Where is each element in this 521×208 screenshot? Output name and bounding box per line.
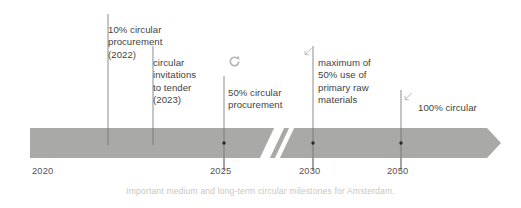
milestone-label-2025: 50% circular procurement: [228, 74, 300, 124]
year-label-2030: 2030: [299, 166, 320, 177]
milestone-label-2030: maximum of 50% use of primary raw materi…: [318, 44, 384, 120]
milestone-label-2050: 100% circular: [418, 89, 502, 127]
milestone-label-2023-text: circular invitations to tender (2023): [153, 57, 219, 107]
arrow-down-left-icon-2030: [304, 47, 313, 56]
dot-2030: [311, 141, 314, 144]
year-label-2050: 2050: [387, 166, 408, 177]
arrow-down-left-icon-2050: [404, 92, 413, 101]
year-label-2020: 2020: [32, 166, 53, 177]
circular-arrow-icon: [228, 55, 241, 68]
year-label-2025: 2025: [210, 166, 231, 177]
milestone-label-2023: circular invitations to tender (2023): [153, 44, 219, 120]
dot-2050: [399, 141, 402, 144]
milestone-label-2030-text: maximum of 50% use of primary raw materi…: [318, 57, 384, 107]
milestone-label-2025-text: 50% circular procurement: [228, 87, 300, 112]
timeline-infographic: 10% circular procurement (2022) circular…: [0, 0, 521, 208]
milestone-label-2050-text: 100% circular: [418, 102, 502, 115]
figure-caption: Important medium and long-term circular …: [0, 186, 521, 197]
dot-2025: [222, 141, 225, 144]
